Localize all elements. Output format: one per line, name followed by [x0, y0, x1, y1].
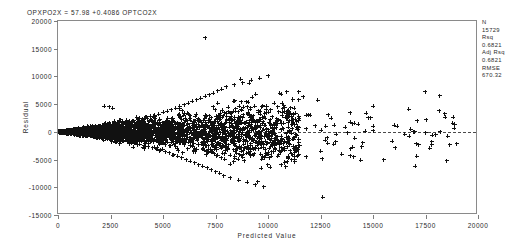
data-point — [415, 154, 419, 158]
data-point — [448, 143, 452, 147]
data-point — [332, 123, 336, 127]
data-point — [240, 132, 244, 136]
data-point — [403, 132, 407, 136]
data-point — [219, 156, 223, 160]
data-point — [293, 148, 297, 152]
data-point — [175, 146, 179, 150]
data-point — [180, 126, 184, 130]
data-point — [285, 145, 289, 149]
data-point — [360, 145, 364, 149]
data-point — [149, 139, 153, 143]
data-point — [197, 142, 201, 146]
data-point — [288, 129, 292, 133]
data-point — [250, 117, 254, 121]
y-axis-tick-label: -5000 — [33, 156, 52, 163]
data-point — [221, 151, 225, 155]
data-point — [348, 111, 352, 115]
data-point — [171, 116, 175, 120]
data-point — [267, 110, 271, 114]
data-point — [155, 145, 159, 149]
data-point — [348, 154, 352, 158]
data-point — [268, 165, 272, 169]
data-point — [223, 140, 227, 144]
data-point — [443, 115, 447, 119]
data-point — [229, 129, 233, 133]
data-point — [237, 116, 241, 120]
data-point — [390, 139, 394, 143]
data-point — [102, 104, 106, 108]
x-axis-tick-label: 20000 — [468, 222, 489, 229]
data-point — [286, 156, 290, 160]
x-axis-tick — [426, 215, 427, 219]
x-axis-tick — [111, 215, 112, 219]
data-point — [424, 131, 428, 135]
data-point — [276, 139, 280, 143]
data-point — [163, 143, 167, 147]
data-point — [237, 122, 241, 126]
data-point — [211, 105, 215, 109]
x-axis-tick-label: 7500 — [207, 222, 223, 229]
data-point — [174, 122, 178, 126]
data-point — [346, 131, 350, 135]
data-point — [285, 117, 289, 121]
x-axis-tick-label: 10000 — [258, 222, 279, 229]
data-point — [393, 146, 397, 150]
data-point — [446, 134, 450, 138]
data-point — [451, 121, 455, 125]
x-axis-title: Predicted Value — [238, 232, 297, 239]
data-point — [267, 146, 271, 150]
x-axis-tick-label: 15000 — [363, 222, 384, 229]
data-point — [246, 111, 250, 115]
data-point — [161, 147, 165, 151]
data-point — [175, 130, 179, 134]
data-point — [207, 126, 211, 130]
data-point — [297, 152, 301, 156]
data-point — [244, 100, 248, 104]
data-point — [153, 130, 157, 134]
data-point — [153, 115, 157, 119]
data-point — [356, 122, 360, 126]
data-point — [434, 133, 438, 137]
data-point — [295, 133, 299, 137]
data-point — [289, 106, 293, 110]
data-point — [266, 133, 270, 137]
data-point — [253, 147, 257, 151]
data-point — [281, 127, 285, 131]
data-point — [443, 112, 447, 116]
stat-rmse-value: 670.32 — [482, 72, 505, 80]
data-point — [232, 118, 236, 122]
data-point — [407, 107, 411, 111]
data-point — [142, 147, 146, 151]
x-axis-tick — [321, 215, 322, 219]
data-point — [262, 115, 266, 119]
x-axis-tick-label: 12500 — [310, 222, 331, 229]
data-point — [240, 108, 244, 112]
data-point — [132, 141, 136, 145]
data-point — [252, 126, 256, 130]
data-point — [203, 128, 207, 132]
data-point — [143, 117, 147, 121]
data-point — [277, 153, 281, 157]
stat-rsq-label: Rsq — [482, 34, 505, 42]
data-point — [241, 127, 245, 131]
data-point — [352, 121, 356, 125]
data-point — [438, 130, 442, 134]
data-point — [306, 113, 310, 117]
data-point — [301, 95, 305, 99]
plot-area — [58, 21, 476, 213]
data-point — [285, 90, 289, 94]
y-axis-tick — [54, 49, 58, 50]
y-axis-tick — [54, 132, 58, 133]
data-point — [366, 116, 370, 120]
data-point — [270, 115, 274, 119]
data-point — [178, 107, 182, 111]
x-axis-tick — [268, 215, 269, 219]
data-point — [111, 106, 115, 110]
data-point — [343, 125, 347, 129]
residual-plot-page: OPXPO2X = 57.98 +0.4086 OPTCO2X -15000-1… — [0, 0, 517, 249]
data-point — [97, 129, 101, 133]
data-point — [130, 119, 134, 123]
data-point — [184, 141, 188, 145]
data-point — [245, 180, 249, 184]
data-point — [371, 104, 375, 108]
